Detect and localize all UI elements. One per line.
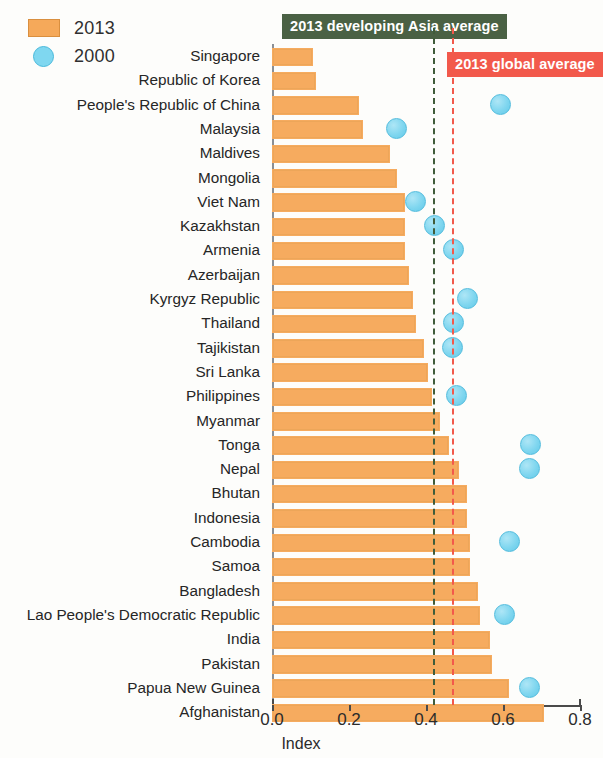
x-tick-label: 0.8 <box>568 710 592 730</box>
bar-2013 <box>272 291 413 310</box>
dot-2000 <box>494 604 515 625</box>
category-label: Thailand <box>201 311 260 335</box>
bar-2013 <box>272 145 390 164</box>
category-label: Kyrgyz Republic <box>149 287 260 311</box>
category-label: Republic of Korea <box>138 68 260 92</box>
legend-item-2000: 2000 <box>28 44 115 68</box>
bar-row <box>272 433 580 457</box>
bar-2013 <box>272 461 459 480</box>
category-label: Nepal <box>220 457 260 481</box>
category-label: Lao People's Democratic Republic <box>27 603 260 627</box>
bar-2013 <box>272 339 424 358</box>
bar-2013 <box>272 606 480 625</box>
category-label: People's Republic of China <box>77 93 260 117</box>
category-label: Pakistan <box>201 652 260 676</box>
bar-row <box>272 409 580 433</box>
reference-label-developing-asia: 2013 developing Asia average <box>282 14 507 39</box>
bar-2013 <box>272 582 478 601</box>
bar-row <box>272 627 580 651</box>
category-label: Philippines <box>186 384 260 408</box>
category-label: Kazakhstan <box>180 214 260 238</box>
bar-row <box>272 676 580 700</box>
bar-2013 <box>272 412 440 431</box>
bar-row <box>272 530 580 554</box>
category-label: Cambodia <box>190 530 260 554</box>
bar-row <box>272 141 580 165</box>
category-label: Bangladesh <box>179 579 260 603</box>
category-label: Azerbaijan <box>188 263 260 287</box>
bar-2013 <box>272 558 470 577</box>
bar-row <box>272 603 580 627</box>
bar-2013 <box>272 120 363 139</box>
dot-2000 <box>405 191 426 212</box>
x-axis-title: Index <box>0 735 602 753</box>
bar-row <box>272 44 580 68</box>
bar-row <box>272 214 580 238</box>
x-tick-label: 0.6 <box>491 710 515 730</box>
bar-2013 <box>272 48 313 67</box>
bar-2013 <box>272 96 359 115</box>
bar-row <box>272 336 580 360</box>
chart-legend: 2013 2000 <box>28 16 115 72</box>
reference-line-developing-asia <box>433 28 435 705</box>
bar-row <box>272 263 580 287</box>
category-label: Tajikistan <box>197 336 260 360</box>
dot-2000 <box>457 288 478 309</box>
bar-2013 <box>272 534 470 553</box>
bar-2013 <box>272 242 405 261</box>
category-label: Viet Nam <box>197 190 260 214</box>
bar-row <box>272 360 580 384</box>
bar-2013 <box>272 315 416 334</box>
x-tick-label: 0.0 <box>260 710 284 730</box>
bar-2013 <box>272 169 397 188</box>
bar-2013 <box>272 218 405 237</box>
bar-2013 <box>272 509 467 528</box>
bar-row <box>272 652 580 676</box>
legend-item-2013: 2013 <box>28 16 115 40</box>
bar-row <box>272 68 580 92</box>
bar-2013 <box>272 193 405 212</box>
x-tick-label: 0.2 <box>337 710 361 730</box>
bar-2013 <box>272 436 449 455</box>
bar-row <box>272 190 580 214</box>
bar-2013 <box>272 388 432 407</box>
bar-2013 <box>272 363 428 382</box>
category-label: Bhutan <box>212 481 260 505</box>
bar-2013 <box>272 485 467 504</box>
bar-row <box>272 554 580 578</box>
legend-label-2013: 2013 <box>74 18 115 39</box>
category-label: Armenia <box>203 238 260 262</box>
dot-2000 <box>386 118 407 139</box>
category-label: Samoa <box>212 554 260 578</box>
dot-2000 <box>499 531 520 552</box>
category-label: Myanmar <box>196 409 260 433</box>
bar-row <box>272 311 580 335</box>
legend-label-2000: 2000 <box>74 46 115 67</box>
dot-2000 <box>490 94 511 115</box>
category-label: Mongolia <box>198 166 260 190</box>
dot-2000 <box>446 385 467 406</box>
reference-line-global <box>452 28 454 705</box>
category-label: Maldives <box>200 141 260 165</box>
category-label: Afghanistan <box>179 700 260 724</box>
bar-row <box>272 117 580 141</box>
bar-2013 <box>272 631 490 650</box>
bar-swatch-icon <box>28 19 60 37</box>
category-label: India <box>227 627 260 651</box>
category-label: Indonesia <box>194 506 260 530</box>
circle-swatch-icon <box>33 46 54 67</box>
category-label: Tonga <box>218 433 260 457</box>
bar-row <box>272 457 580 481</box>
dot-2000 <box>519 458 540 479</box>
category-label: Sri Lanka <box>195 360 260 384</box>
category-label: Papua New Guinea <box>127 676 260 700</box>
x-tick-label: 0.4 <box>414 710 438 730</box>
bar-row <box>272 506 580 530</box>
category-label: Singapore <box>190 44 260 68</box>
bar-2013 <box>272 72 316 91</box>
bar-row <box>272 93 580 117</box>
bar-row <box>272 579 580 603</box>
bar-2013 <box>272 655 492 674</box>
category-label: Malaysia <box>200 117 260 141</box>
